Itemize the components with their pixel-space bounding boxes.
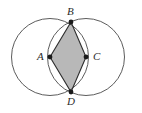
vertex-dot-d <box>69 90 74 95</box>
vertex-dot-b <box>69 20 74 25</box>
vertex-label-b: B <box>67 6 74 17</box>
vertex-dot-c <box>84 55 89 60</box>
vertex-label-a: A <box>37 51 44 62</box>
vertex-label-c: C <box>93 51 100 62</box>
vertex-dot-a <box>48 55 53 60</box>
vertex-label-d: D <box>67 96 75 107</box>
geometry-figure: B A C D <box>0 0 142 113</box>
